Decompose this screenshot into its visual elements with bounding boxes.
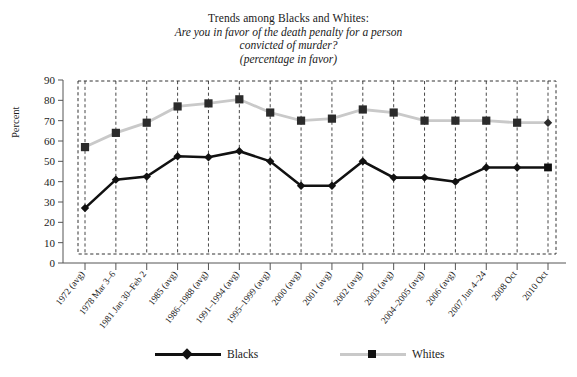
data-point-marker <box>112 129 120 137</box>
data-point-marker <box>204 153 212 161</box>
y-tick-label: 90 <box>44 74 56 86</box>
x-axis <box>63 263 566 270</box>
y-tick-label: 20 <box>44 216 56 228</box>
data-point-marker <box>174 102 182 110</box>
data-series-layer <box>81 95 552 212</box>
chart-plot-area: 0102030405060708090 1972 (avg)1978 Mar 3… <box>0 0 577 377</box>
data-point-marker <box>420 173 428 181</box>
x-axis-tick-labels: 1972 (avg)1978 Mar 3–61981 Jan 30–Feb 21… <box>54 269 550 331</box>
data-point-marker <box>513 119 521 127</box>
data-point-marker <box>204 99 212 107</box>
series-line-blacks <box>85 151 548 208</box>
series-line-whites <box>85 99 548 147</box>
legend-label-whites: Whites <box>412 348 445 360</box>
data-point-marker <box>482 117 490 125</box>
x-tick-label: 2006 (avg) <box>424 269 458 308</box>
legend-swatch-whites <box>340 348 406 360</box>
data-point-marker <box>81 143 89 151</box>
legend-item-blacks: Blacks <box>155 348 258 360</box>
x-tick-label: 1985 (avg) <box>146 269 180 308</box>
y-tick-label: 60 <box>44 135 56 147</box>
data-point-marker <box>143 119 151 127</box>
data-point-marker <box>420 117 428 125</box>
y-tick-label: 40 <box>44 176 56 188</box>
x-tick-label: 2003 (avg) <box>362 269 396 308</box>
legend-swatch-blacks <box>155 348 221 360</box>
data-point-marker <box>328 115 336 123</box>
data-point-marker <box>359 105 367 113</box>
data-point-marker <box>544 164 552 172</box>
x-tick-label: 2001 (avg) <box>301 269 335 308</box>
y-tick-label: 50 <box>44 155 56 167</box>
y-tick-label: 10 <box>44 237 56 249</box>
data-point-marker <box>482 163 490 171</box>
data-point-marker <box>451 117 459 125</box>
x-tick-label: 2002 (avg) <box>332 269 366 308</box>
legend-label-blacks: Blacks <box>227 348 258 360</box>
y-tick-label: 30 <box>44 196 56 208</box>
data-point-marker <box>235 95 243 103</box>
data-point-marker <box>297 117 305 125</box>
x-tick-label: 2008 Oct <box>490 269 519 303</box>
data-point-marker <box>451 177 459 185</box>
y-tick-label: 80 <box>44 94 56 106</box>
data-point-marker <box>513 163 521 171</box>
legend-item-whites: Whites <box>340 348 445 360</box>
data-point-marker <box>235 147 243 155</box>
data-point-marker <box>544 119 552 127</box>
y-tick-label: 0 <box>50 257 56 269</box>
x-tick-label: 2000 (avg) <box>270 269 304 308</box>
y-axis: 0102030405060708090 <box>44 74 63 269</box>
y-tick-label: 70 <box>44 115 56 127</box>
chart-figure: Trends among Blacks and Whites: Are you … <box>0 0 577 377</box>
x-tick-label: 2010 Oct <box>521 269 550 303</box>
gridlines <box>85 81 548 254</box>
chart-legend: Blacks Whites <box>0 348 577 370</box>
x-tick-label: 1972 (avg) <box>54 269 88 308</box>
data-point-marker <box>266 108 274 116</box>
data-point-marker <box>390 108 398 116</box>
